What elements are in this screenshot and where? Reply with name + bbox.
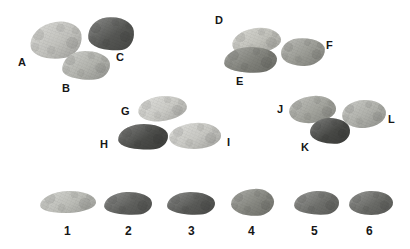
label-I: I	[227, 137, 230, 148]
specimen-fill	[223, 46, 277, 75]
label-1: 1	[64, 225, 71, 237]
specimen-texture	[341, 98, 387, 129]
specimen-b	[61, 49, 111, 81]
specimen-fill	[86, 15, 135, 54]
specimen-texture	[223, 46, 277, 75]
specimen-f	[280, 36, 326, 68]
label-3: 3	[188, 225, 195, 237]
label-B: B	[62, 83, 70, 94]
label-D: D	[215, 15, 223, 26]
label-J: J	[277, 104, 283, 115]
specimen-fill	[117, 122, 169, 151]
specimen-texture	[39, 190, 96, 215]
label-6: 6	[366, 225, 373, 237]
specimen-texture	[86, 15, 135, 54]
specimen-texture	[280, 36, 326, 68]
specimen-fill	[341, 98, 387, 129]
label-F: F	[326, 40, 333, 51]
specimen-texture	[166, 191, 215, 216]
label-C: C	[116, 52, 124, 63]
specimen-texture	[137, 94, 188, 124]
specimen-fill	[61, 49, 111, 81]
specimen-plate: ABCDEFGHIJKL123456	[0, 0, 410, 249]
specimen-fill	[137, 94, 188, 124]
specimen-fill	[280, 36, 326, 68]
specimen-texture	[293, 190, 339, 216]
specimen-6	[348, 190, 393, 216]
label-4: 4	[248, 225, 255, 237]
label-H: H	[100, 139, 108, 150]
specimen-texture	[117, 122, 169, 151]
specimen-e	[223, 46, 277, 75]
label-2: 2	[125, 225, 132, 237]
specimen-texture	[61, 49, 111, 81]
specimen-fill	[230, 188, 274, 217]
specimen-g	[137, 94, 188, 124]
label-5: 5	[311, 225, 318, 237]
specimen-3	[166, 191, 215, 216]
specimen-fill	[168, 121, 222, 151]
label-L: L	[388, 114, 395, 125]
specimen-fill	[39, 190, 96, 215]
specimen-texture	[230, 188, 274, 217]
specimen-fill	[166, 191, 215, 216]
specimen-l	[341, 98, 387, 129]
specimen-fill	[103, 191, 152, 216]
specimen-texture	[103, 191, 152, 216]
specimen-1	[39, 190, 96, 215]
label-G: G	[121, 106, 130, 117]
specimen-fill	[348, 190, 393, 216]
specimen-fill	[293, 190, 339, 216]
specimen-5	[293, 190, 339, 216]
label-A: A	[18, 57, 26, 68]
label-K: K	[301, 142, 309, 153]
specimen-i	[168, 121, 222, 151]
specimen-4	[230, 188, 274, 217]
specimen-h	[117, 122, 169, 151]
specimen-texture	[348, 190, 393, 216]
label-E: E	[236, 76, 243, 87]
specimen-c	[86, 15, 135, 54]
specimen-texture	[168, 121, 222, 151]
specimen-2	[103, 191, 152, 216]
